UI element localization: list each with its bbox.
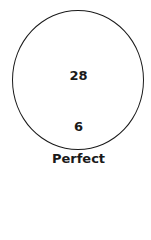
top-number: 28 [3, 68, 151, 83]
bottom-number: 6 [3, 119, 151, 134]
caption-label: Perfect [3, 151, 151, 166]
